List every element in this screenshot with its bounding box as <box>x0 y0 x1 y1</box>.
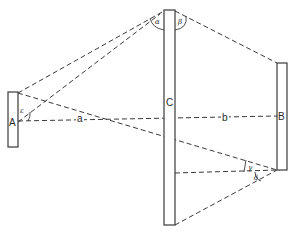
line-a-top-to-b-bottom <box>18 93 277 170</box>
angle-epsilon-label: ε <box>20 107 24 115</box>
angle-gamma-arc <box>244 160 246 172</box>
angle-epsilon-arc <box>28 112 30 121</box>
post-b-label: B <box>278 111 285 122</box>
angle-alpha-label: α <box>155 18 160 26</box>
line-a-vertex-to-c-top <box>18 14 160 122</box>
angle-delta-label: δ <box>254 174 258 182</box>
line-c-top-to-b-top <box>175 11 277 63</box>
post-c <box>164 10 175 225</box>
angle-beta-label: β <box>177 18 182 26</box>
angle-gamma-label: γ <box>248 164 253 172</box>
distance-b-label: b <box>222 112 228 123</box>
line-c-bottom-to-b-bottom <box>175 170 277 225</box>
line-a-top-to-c-top <box>18 11 164 93</box>
triangulation-diagram: A C B a b α β γ δ ε <box>0 0 297 236</box>
line-c-to-b-bottom <box>175 170 277 173</box>
post-c-label: C <box>166 97 173 108</box>
line-a-to-b-baseline <box>18 116 277 121</box>
post-a-label: A <box>9 117 16 128</box>
distance-a-label: a <box>77 113 83 124</box>
